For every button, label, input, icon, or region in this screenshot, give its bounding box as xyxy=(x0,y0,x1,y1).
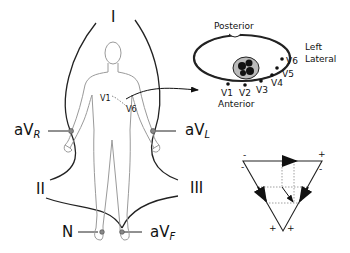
pointer-arrow xyxy=(126,88,198,99)
neutral-label: N xyxy=(62,223,73,241)
lead-wires xyxy=(46,20,178,232)
v6-electrode-label: V6 xyxy=(286,56,298,66)
sign-right-side: - xyxy=(319,164,322,174)
lateral-label: Lateral xyxy=(305,54,336,64)
anterior-label: Anterior xyxy=(218,99,255,109)
sign-top-left: - xyxy=(243,150,246,160)
human-body-outline xyxy=(64,42,160,240)
v1-label: V1 xyxy=(100,94,111,103)
chest-electrodes: V1 V6 xyxy=(100,88,198,114)
v6-label: V6 xyxy=(126,105,137,114)
v1-electrode-label: V1 xyxy=(221,88,233,98)
thorax-cross-section: Posterior Anterior Left Lateral V1 V2 V3… xyxy=(194,21,336,109)
lead-II-label: II xyxy=(36,180,45,198)
v4-electrode-label: V4 xyxy=(271,78,283,88)
ecg-diagram: V1 V6 I aVR aVL II III N aVF Posterior A… xyxy=(0,0,350,253)
sign-bottom-right: + xyxy=(287,223,295,233)
aVL-label: aVL xyxy=(185,121,210,140)
sign-bottom-left: + xyxy=(269,223,277,233)
posterior-label: Posterior xyxy=(214,21,254,31)
v5-electrode-label: V5 xyxy=(282,69,294,79)
v2-electrode-label: V2 xyxy=(239,88,251,98)
sign-left-side: - xyxy=(241,162,244,172)
aVF-label: aVF xyxy=(150,223,175,242)
einthoven-triangle: - + - - + + xyxy=(241,149,326,233)
sign-top-right: + xyxy=(318,149,326,159)
v3-electrode-label: V3 xyxy=(256,85,268,95)
aVR-label: aVR xyxy=(14,121,40,140)
lead-I-label: I xyxy=(111,8,115,26)
lead-III-label: III xyxy=(190,179,203,197)
left-label: Left xyxy=(305,42,322,52)
